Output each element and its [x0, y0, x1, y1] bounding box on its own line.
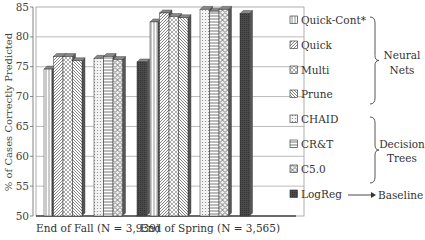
y-axis-label: % of Cases Correctly Predicted	[3, 32, 14, 191]
legend-label: C5.0	[301, 163, 326, 175]
neural-nets-bracket	[370, 17, 379, 104]
legend-label: Multi	[301, 64, 330, 76]
group-label-baseline: Baseline	[378, 189, 423, 201]
legend-label: LogReg	[301, 188, 342, 200]
decision-trees-bracket	[370, 117, 379, 183]
bar-prune	[73, 58, 86, 216]
legend-label: CHAID	[301, 113, 338, 125]
arrow-head-icon	[371, 192, 376, 198]
y-tick-label: 50	[16, 210, 29, 222]
bar-logreg	[240, 11, 253, 216]
group-label-neural: Nets	[389, 64, 414, 76]
legend-label: Quick-Cont*	[301, 14, 367, 26]
x-category-label: End of Spring (N = 3,565)	[140, 222, 280, 234]
legend-label: CR&T	[301, 138, 333, 150]
bar-c5-0	[113, 57, 126, 216]
y-tick-label: 60	[16, 150, 29, 162]
y-tick-label: 55	[16, 180, 29, 192]
group-label-trees: Decision	[379, 138, 425, 150]
y-tick-label: 75	[16, 60, 29, 72]
legend-label: Prune	[301, 88, 333, 100]
y-tick-label: 85	[16, 1, 29, 13]
bar-prune	[179, 15, 192, 216]
bar-chart: 5055606570758085 End of Fall (N = 3,939)…	[0, 0, 425, 240]
y-tick-label: 65	[16, 120, 29, 132]
bar-c5-0	[219, 6, 232, 216]
legend-label: Quick	[301, 39, 333, 51]
y-tick-label: 80	[16, 30, 29, 42]
bar-logreg	[137, 59, 150, 216]
group-label-neural: Neural	[384, 49, 421, 61]
y-tick-label: 70	[16, 90, 29, 102]
x-axis-categories: End of Fall (N = 3,939)End of Spring (N …	[36, 222, 280, 234]
group-label-trees: Trees	[387, 152, 417, 164]
y-axis: 5055606570758085	[16, 1, 33, 222]
legend-item: Quick-Cont*	[290, 14, 367, 26]
legend: Quick-Cont*QuickMultiPruneCHAIDCR&TC5.0L…	[290, 14, 425, 201]
